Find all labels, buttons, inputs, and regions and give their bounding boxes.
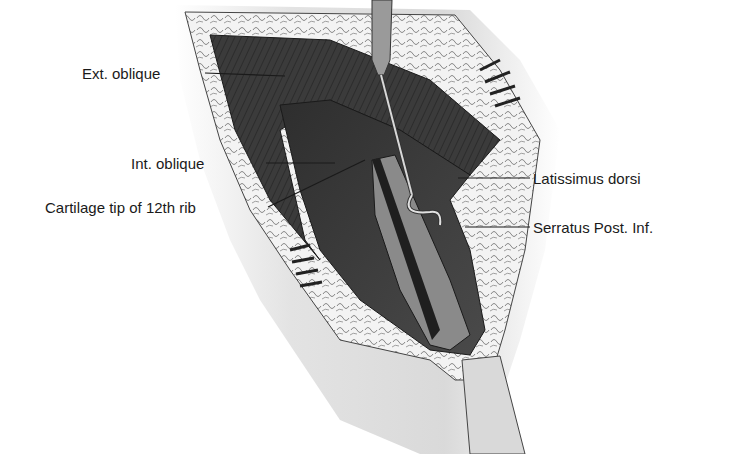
label-cartilage-tip: Cartilage tip of 12th rib [45,200,196,215]
lower-retractor-blade [462,356,525,454]
label-int-oblique: Int. oblique [131,156,204,171]
label-ext-oblique: Ext. oblique [82,66,160,81]
label-latissimus-dorsi: Latissimus dorsi [533,171,641,186]
label-serratus-post-inf: Serratus Post. Inf. [533,220,653,235]
